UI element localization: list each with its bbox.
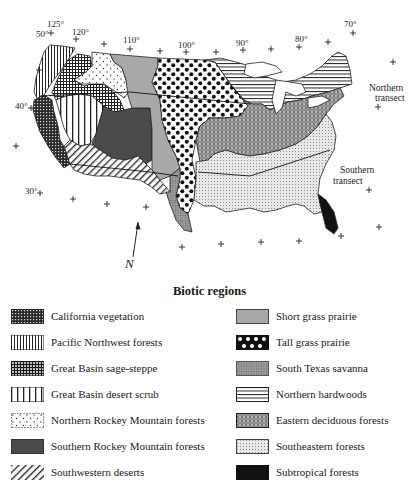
legend-item-great-basin-sage-steppe: Great Basin sage-steppe	[11, 355, 205, 381]
region-subtropical-forests	[318, 194, 338, 234]
biotic-regions-map: 125° 120° 110° 100° 90° 80° 70° 50° 40° …	[0, 0, 419, 280]
southern-rocky-swatch-icon	[11, 439, 44, 454]
legend-item-pacific-northwest: Pacific Northwest forests	[11, 329, 205, 355]
tall-grass-swatch-icon	[236, 335, 269, 350]
legend-item-short-grass-prairie: Short grass prairie	[236, 303, 388, 329]
legend-item-southwestern-deserts: Southwestern deserts	[11, 459, 205, 482]
savanna-swatch-icon	[236, 361, 269, 376]
legend-item-southern-rocky-forests: Southern Rockey Mountain forests	[11, 433, 205, 459]
svg-text:50°: 50°	[36, 29, 49, 39]
svg-text:90°: 90°	[236, 38, 249, 48]
north-arrow: N	[124, 221, 141, 271]
subtropical-swatch-icon	[236, 465, 269, 480]
desert-scrub-swatch-icon	[11, 387, 44, 402]
eastern-deciduous-swatch-icon	[236, 413, 269, 428]
svg-text:40°: 40°	[15, 101, 28, 111]
svg-text:70°: 70°	[344, 19, 357, 29]
legend-item-northern-hardwoods: Northern hardwoods	[236, 381, 388, 407]
legend-item-northern-rocky-forests: Northern Rockey Mountain forests	[11, 407, 205, 433]
legend-item-southeastern-forests: Southeastern forests	[236, 433, 388, 459]
southeastern-forests-swatch-icon	[236, 439, 269, 454]
svg-text:30°: 30°	[25, 186, 38, 196]
svg-text:125°: 125°	[47, 19, 65, 29]
legend-title: Biotic regions	[0, 284, 419, 299]
legend-left-column: California vegetation Pacific Northwest …	[11, 303, 205, 482]
northern-hardwoods-swatch-icon	[236, 387, 269, 402]
svg-text:110°: 110°	[123, 35, 140, 45]
legend-item-great-basin-desert-scrub: Great Basin desert scrub	[11, 381, 205, 407]
southern-transect-label-line2: transect	[333, 176, 363, 186]
svg-text:N: N	[124, 256, 135, 271]
legend-item-subtropical-forests: Subtropical forests	[236, 459, 388, 482]
northern-transect-label: Northern	[369, 83, 404, 93]
legend-item-south-texas-savanna: South Texas savanna	[236, 355, 388, 381]
legend-right-column: Short grass prairie Tall grass prairie S…	[236, 303, 388, 482]
sage-steppe-swatch-icon	[11, 361, 44, 376]
legend-item-eastern-deciduous: Eastern deciduous forests	[236, 407, 388, 433]
northern-rocky-swatch-icon	[11, 413, 44, 428]
legend-item-california-vegetation: California vegetation	[11, 303, 205, 329]
svg-text:100°: 100°	[178, 40, 196, 50]
short-grass-swatch-icon	[236, 309, 269, 324]
legend-item-tall-grass-prairie: Tall grass prairie	[236, 329, 388, 355]
california-vegetation-swatch-icon	[11, 309, 44, 324]
southwestern-deserts-swatch-icon	[11, 465, 44, 480]
northern-transect-label-line2: transect	[375, 93, 405, 103]
svg-text:120°: 120°	[72, 27, 90, 37]
svg-text:80°: 80°	[295, 34, 308, 44]
pacific-northwest-swatch-icon	[11, 335, 44, 350]
southern-transect-label: Southern	[340, 165, 375, 175]
